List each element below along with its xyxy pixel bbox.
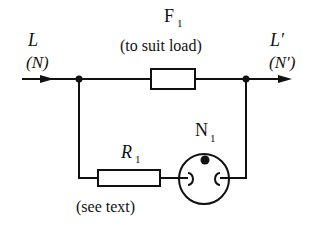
fuse-subscript: 1	[177, 17, 183, 29]
circuit-diagram: L (N) F 1 (to suit load) L′ (N′) R 1 (se…	[0, 0, 323, 233]
neon-label: N	[195, 120, 208, 140]
neon-subscript: 1	[210, 132, 216, 144]
resistor-symbol	[98, 170, 160, 186]
arrow-in-icon	[40, 75, 54, 83]
fuse-note: (to suit load)	[120, 37, 202, 55]
input-label: L	[27, 30, 38, 50]
resistor-subscript: 1	[135, 153, 141, 165]
output-label: L′	[269, 30, 285, 50]
fuse-label: F	[164, 6, 174, 26]
junction-left	[76, 76, 83, 83]
output-label-alt: (N′)	[269, 53, 296, 72]
junction-right	[243, 76, 250, 83]
fuse-symbol	[151, 69, 195, 89]
neon-electrode-right	[215, 173, 220, 185]
neon-gas-dot	[201, 156, 210, 165]
resistor-note: (see text)	[76, 198, 135, 216]
input-label-alt: (N)	[26, 53, 49, 72]
arrow-out-icon	[278, 75, 292, 83]
branch-wire-left	[79, 79, 98, 178]
neon-electrode-left	[188, 173, 193, 185]
resistor-label: R	[120, 142, 132, 162]
